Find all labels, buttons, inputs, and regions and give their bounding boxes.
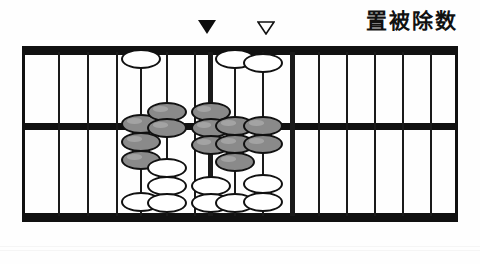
abacus-rod-13[interactable] xyxy=(402,52,404,216)
bead-white-rod8[interactable] xyxy=(243,53,283,73)
bead-white-rod8[interactable] xyxy=(243,174,283,194)
bead-gray-rod8[interactable] xyxy=(243,116,283,136)
abacus-rod-2[interactable] xyxy=(116,52,118,216)
caption-text: 置被除数 xyxy=(366,8,458,34)
abacus-rod-14[interactable] xyxy=(430,52,432,216)
abacus-rod-11[interactable] xyxy=(346,52,348,216)
hollow-down-triangle xyxy=(257,21,275,35)
abacus-rod-10[interactable] xyxy=(318,52,320,216)
bead-white-rod4[interactable] xyxy=(147,193,187,213)
frame-right-side xyxy=(455,46,458,222)
solid-down-triangle xyxy=(198,20,216,34)
abacus-illustration: 置被除数 xyxy=(0,0,480,264)
abacus-rod-12[interactable] xyxy=(374,52,376,216)
scan-noise xyxy=(0,250,480,251)
frame-left-side xyxy=(22,46,25,222)
bead-white-rod8[interactable] xyxy=(243,192,283,212)
abacus-rod-9[interactable] xyxy=(290,52,295,216)
bead-gray-rod7[interactable] xyxy=(215,152,255,172)
bead-white-rod4[interactable] xyxy=(147,158,187,178)
bead-white-rod3[interactable] xyxy=(121,49,161,69)
abacus-rod-1[interactable] xyxy=(87,52,89,216)
scan-noise xyxy=(0,246,480,247)
bead-gray-rod4[interactable] xyxy=(147,118,187,138)
abacus-rod-0[interactable] xyxy=(58,52,60,216)
abacus-frame xyxy=(22,46,458,222)
bead-gray-rod8[interactable] xyxy=(243,134,283,154)
